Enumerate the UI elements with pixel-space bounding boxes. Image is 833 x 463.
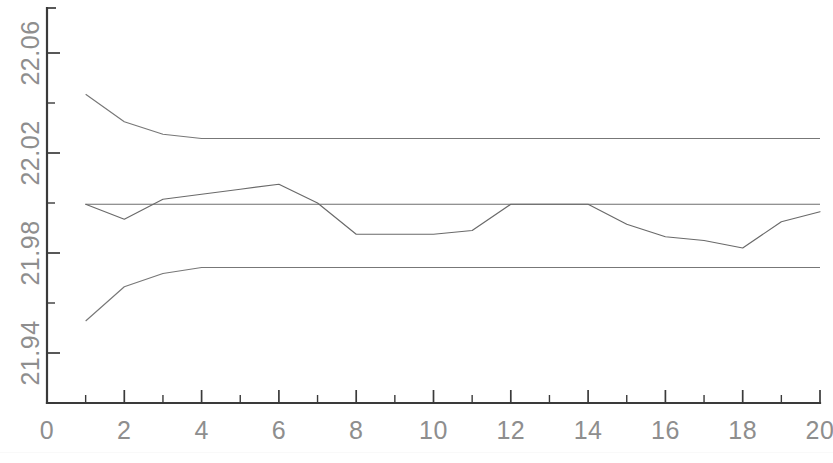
x-tick-label-6: 12 <box>496 416 525 444</box>
x-tick-label-9: 18 <box>728 416 757 444</box>
y-tick-label-3: 22.06 <box>16 20 44 85</box>
y-tick-label-1: 21.98 <box>16 220 44 285</box>
y-axis-labels-group: 21.9421.9822.0222.06 <box>16 20 44 385</box>
scan-artifact-band <box>0 452 833 453</box>
y-tick-label-0: 21.94 <box>16 320 44 385</box>
x-tick-label-3: 6 <box>272 416 286 444</box>
control-chart: 21.9421.9822.0222.06 02468101214161820 <box>0 0 833 463</box>
x-axis-ticks-group <box>47 390 820 403</box>
y-tick-label-2: 22.02 <box>16 120 44 185</box>
x-tick-label-5: 10 <box>419 416 448 444</box>
x-axis-labels-group: 02468101214161820 <box>40 416 833 444</box>
sample-mean-line <box>86 184 820 248</box>
data-series-group <box>86 184 820 248</box>
reference-lines-group <box>86 139 820 268</box>
x-tick-label-7: 14 <box>574 416 603 444</box>
chart-plot-area: 21.9421.9822.0222.06 02468101214161820 <box>0 0 833 463</box>
upper-control-limit-curve <box>86 94 820 138</box>
control-limit-curves-group <box>86 94 820 321</box>
x-tick-label-8: 16 <box>651 416 680 444</box>
x-tick-label-4: 8 <box>349 416 363 444</box>
x-tick-label-0: 0 <box>40 416 54 444</box>
x-tick-label-2: 4 <box>194 416 208 444</box>
lower-control-limit-curve <box>86 268 820 322</box>
axes-group <box>47 8 820 403</box>
x-tick-label-1: 2 <box>117 416 131 444</box>
y-axis-ticks-group <box>47 53 60 403</box>
x-tick-label-10: 20 <box>806 416 833 444</box>
